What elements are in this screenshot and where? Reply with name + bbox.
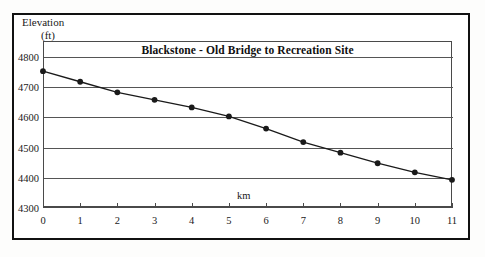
elevation-line (43, 71, 452, 180)
x-tick-label: 3 (152, 215, 157, 226)
x-tick-label: 4 (189, 215, 194, 226)
data-point (449, 177, 455, 183)
data-point (263, 126, 269, 132)
x-tick-label: 7 (301, 215, 306, 226)
data-point (77, 79, 83, 85)
elevation-markers (40, 68, 455, 182)
y-tick-label: 4800 (18, 52, 39, 63)
x-tick-label: 11 (447, 215, 457, 226)
y-tick-label: 4300 (18, 203, 39, 214)
data-point (40, 68, 46, 74)
data-point (152, 97, 158, 103)
elevation-series (43, 41, 452, 207)
data-point (412, 169, 418, 175)
x-tick-label: 1 (78, 215, 83, 226)
x-tick-label: 6 (263, 215, 268, 226)
y-tick-label: 4400 (18, 172, 39, 183)
x-tick-label: 0 (40, 215, 45, 226)
data-point (189, 105, 195, 111)
y-tick-label: 4500 (18, 142, 39, 153)
y-tick-label: 4700 (18, 82, 39, 93)
x-tick-label: 8 (338, 215, 343, 226)
data-point (375, 160, 381, 166)
x-tick-label: 2 (115, 215, 120, 226)
data-point (226, 114, 232, 120)
data-point (114, 89, 120, 95)
data-point (338, 150, 344, 156)
x-tick-label: 10 (410, 215, 421, 226)
x-tick (452, 203, 453, 208)
x-tick-label: 9 (375, 215, 380, 226)
y-axis-title: Elevation (ft) (22, 16, 74, 42)
y-tick-label: 4600 (18, 112, 39, 123)
data-point (300, 139, 306, 145)
y-axis-title-label: Elevation (22, 16, 64, 28)
x-axis-line: 01234567891011 (43, 207, 452, 208)
x-tick-label: 5 (226, 215, 231, 226)
